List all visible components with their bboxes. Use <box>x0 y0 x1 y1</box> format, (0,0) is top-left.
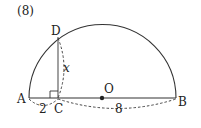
center-point-o <box>100 96 104 100</box>
label-cb-length: 8 <box>115 102 123 116</box>
semicircle-diagram: (8) D A B C O x 2 8 <box>0 0 201 128</box>
label-c: C <box>54 102 63 116</box>
problem-number: (8) <box>17 4 34 18</box>
right-angle-mark <box>50 91 58 98</box>
label-ac-length: 2 <box>39 102 47 116</box>
label-b: B <box>178 95 187 109</box>
label-x: x <box>63 61 70 75</box>
label-d: D <box>51 24 61 38</box>
label-o: O <box>104 82 114 96</box>
label-a: A <box>16 92 26 106</box>
